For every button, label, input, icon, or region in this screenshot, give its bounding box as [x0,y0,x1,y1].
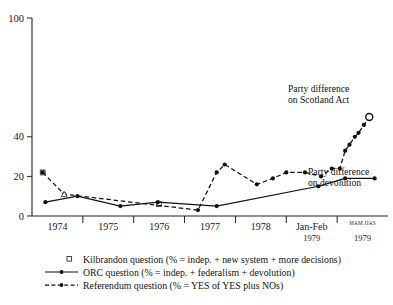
x-tick-label: 1975 [98,221,118,232]
x-tick-sublabel: 1979 [303,233,320,243]
y-axis: 02040100 [8,13,32,222]
data-point [284,170,288,174]
x-tick-sublabel: 1979 [354,233,371,243]
legend-entry-referendum: Referendum question (% = YES of YES plus… [45,280,283,292]
data-series-layer [40,115,376,212]
annotation-open-circle-marker [366,114,373,121]
data-point [41,170,45,174]
data-point [118,204,122,208]
legend-entry-orc: ORC question (% = indep. + federalism + … [45,267,295,279]
x-tick-group: 19741975197619771978Jan-Feb1979MAM JJAS1… [47,216,375,243]
y-tick-label: 40 [14,131,25,142]
legend-label-referendum: Referendum question (% = YES of YES plus… [83,280,283,292]
data-point [347,143,351,147]
chart-legend: Kilbrandon question (% = indep. + new sy… [45,254,341,292]
data-point [356,131,360,135]
data-point [353,135,357,139]
x-tick-label: 1978 [251,221,271,232]
legend-label-orc: ORC question (% = indep. + federalism + … [83,267,295,279]
annotation-devolution-line1: Party difference [308,166,369,177]
x-tick-label: MAM JJAS [349,220,376,226]
x-tick-label: 1976 [149,221,169,232]
legend-dot-orc-icon [60,270,64,274]
x-tick-label: 1974 [47,221,67,232]
data-point [255,182,259,186]
data-point [303,170,307,174]
data-point [373,176,377,180]
data-point [156,200,160,204]
data-point [196,208,200,212]
annotation-devolution-line2: on devolution [308,177,361,188]
annotation-scotland-act-line1: Party difference [288,83,349,94]
x-tick-label: 1977 [200,221,220,232]
legend-label-kilbrandon: Kilbrandon question (% = indep. + new sy… [83,254,341,266]
y-tick-label: 20 [14,171,25,182]
data-point [362,123,366,127]
legend-dot-referendum-icon [60,283,64,287]
data-point [223,162,227,166]
annotation-scotland-act-line2: on Scotland Act [288,94,350,105]
y-tick-label: 0 [19,211,24,222]
data-point [43,200,47,204]
chart-container: 02040100 19741975197619771978Jan-Feb1979… [0,0,393,305]
x-tick-label: Jan-Feb [296,221,328,232]
data-point [343,149,347,153]
data-point [215,170,219,174]
y-tick-label: 100 [8,13,24,24]
series-2 [41,115,372,212]
y-tick-group: 02040100 [8,13,32,222]
x-axis: 19741975197619771978Jan-Feb1979MAM JJAS1… [32,216,388,243]
data-point [215,204,219,208]
line-chart: 02040100 19741975197619771978Jan-Feb1979… [0,0,393,305]
legend-open-square-icon [67,257,72,262]
data-point [271,176,275,180]
legend-entry-kilbrandon: Kilbrandon question (% = indep. + new sy… [67,254,341,266]
series-path-2 [43,117,370,210]
